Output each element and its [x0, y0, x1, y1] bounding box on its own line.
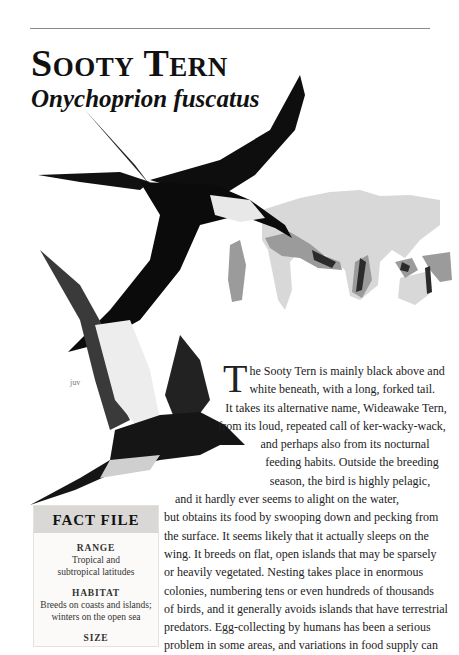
- article-line: feeding habits. Outside the breeding: [175, 453, 459, 471]
- fact-size: Size: [34, 632, 158, 644]
- article-line: wing. It breeds on flat, open islands th…: [164, 545, 459, 563]
- fact-habitat: Habitat Breeds on coasts and islands; wi…: [34, 587, 158, 623]
- fact-value: Breeds on coasts and islands;: [40, 600, 151, 610]
- fact-value: Tropical and: [72, 555, 120, 565]
- article-line: white beneath, with a long, forked tail.: [175, 380, 459, 398]
- fact-label: Range: [34, 542, 158, 554]
- juvenile-label: juv: [70, 378, 80, 387]
- article-line: he Sooty Tern is mainly black above and: [175, 362, 459, 380]
- article-line: and it hardly ever seems to alight on th…: [115, 490, 459, 508]
- article-line: It takes its alternative name, Wideawake…: [175, 399, 459, 417]
- fact-value: winters on the open sea: [51, 612, 140, 622]
- fact-value: subtropical latitudes: [58, 567, 135, 577]
- fact-label: Size: [34, 632, 158, 644]
- fact-label: Habitat: [34, 587, 158, 599]
- range-map: [228, 190, 452, 310]
- article-line: problem in some areas, and variations in…: [164, 636, 459, 654]
- article-body: T he Sooty Tern is mainly black above an…: [175, 362, 459, 655]
- fact-range: Range Tropical and subtropical latitudes: [34, 542, 158, 578]
- drop-cap: T: [223, 364, 247, 394]
- fact-file-heading: Fact File: [34, 506, 158, 533]
- article-line: from its loud, repeated call of ker-wack…: [175, 417, 459, 435]
- article-line: the surface. It seems likely that it act…: [164, 527, 459, 545]
- fact-file: Fact File Range Tropical and subtropical…: [33, 505, 159, 647]
- article-line: or heavily vegetated. Nesting takes plac…: [164, 563, 459, 581]
- article-line: season, the bird is highly pelagic,: [175, 472, 459, 490]
- article-line: colonies, numbering tens or even hundred…: [164, 582, 459, 600]
- article-line: and perhaps also from its nocturnal: [175, 435, 459, 453]
- article-line: but obtains its food by swooping down an…: [164, 508, 459, 526]
- article-line: of birds, and it generally avoids island…: [164, 600, 459, 618]
- article-line: predators. Egg-collecting by humans has …: [164, 618, 459, 636]
